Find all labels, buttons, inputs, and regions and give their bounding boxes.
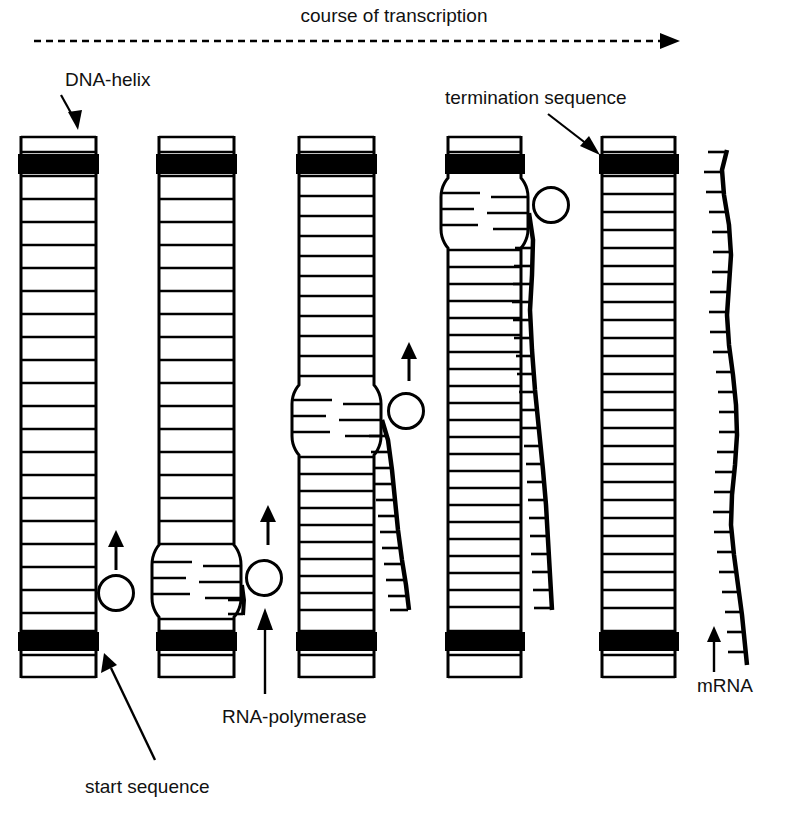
rna-polymerase-label: RNA-polymerase: [222, 706, 367, 727]
rna-polymerase-icon: [389, 394, 424, 429]
dna-helix-label: DNA-helix: [65, 69, 151, 90]
start-sequence-band: [18, 632, 99, 651]
transcription-diagram: course of transcription DNA-helix termin…: [0, 0, 788, 821]
termination-sequence-band: [445, 154, 525, 174]
rna-polymerase-icon: [99, 576, 134, 611]
termination-sequence-band: [296, 154, 377, 174]
start-sequence-band: [156, 632, 237, 651]
mrna-label: mRNA: [697, 675, 753, 696]
course-of-transcription-label: course of transcription: [301, 5, 488, 26]
rna-polymerase-icon: [534, 188, 569, 223]
rna-polymerase-icon: [247, 561, 282, 596]
start-sequence-band: [296, 632, 377, 651]
start-sequence-label: start sequence: [85, 776, 210, 797]
termination-sequence-band: [156, 154, 237, 174]
termination-sequence-label: termination sequence: [445, 87, 627, 108]
termination-sequence-band: [599, 154, 679, 174]
termination-sequence-band: [18, 154, 99, 174]
start-sequence-band: [599, 632, 679, 651]
start-sequence-band: [445, 632, 525, 651]
